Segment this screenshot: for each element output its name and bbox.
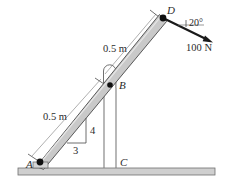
ground-band xyxy=(18,168,215,175)
figure-canvas: A B C D 0.5 m 0.5 m 4 3 20° 100 N xyxy=(0,0,235,184)
node-b xyxy=(107,82,113,88)
force-load-100n xyxy=(163,18,213,43)
label-force-angle: 20° xyxy=(189,17,203,28)
label-point-d: D xyxy=(166,4,175,16)
label-point-b: B xyxy=(119,79,126,91)
label-force-magnitude: 100 N xyxy=(186,42,212,53)
label-dimension-lower: 0.5 m xyxy=(43,111,67,122)
label-dimension-upper: 0.5 m xyxy=(103,43,127,54)
ground xyxy=(18,168,215,175)
label-point-a: A xyxy=(25,158,33,170)
beam-ad xyxy=(36,15,166,170)
beam-body xyxy=(36,15,166,170)
beam-highlight xyxy=(39,16,161,165)
post-bc xyxy=(104,88,116,168)
statics-figure: A B C D 0.5 m 0.5 m 4 3 20° 100 N xyxy=(0,0,235,184)
label-slope-run: 3 xyxy=(73,145,78,156)
node-a xyxy=(37,159,44,166)
dimension-tick-b-lower xyxy=(95,78,104,84)
label-slope-rise: 4 xyxy=(90,125,96,136)
node-d xyxy=(160,15,167,22)
label-point-c: C xyxy=(120,156,128,168)
dimension-lines xyxy=(28,10,159,160)
